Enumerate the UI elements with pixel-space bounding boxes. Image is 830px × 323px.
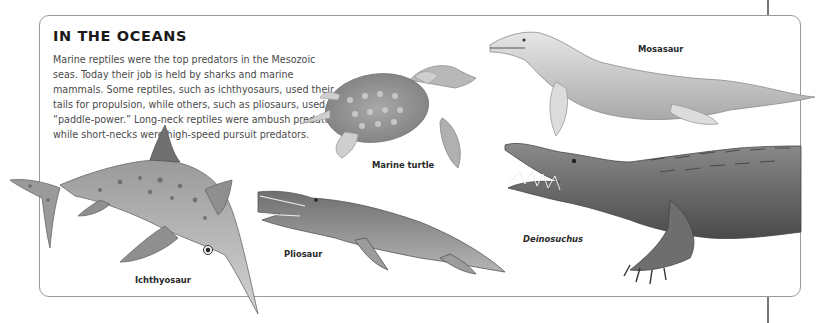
pliosaur-illustration [258,191,505,274]
pliosaur-label: Pliosaur [284,249,322,259]
ichthyosaur-label: Ichthyosaur [135,275,191,285]
marine-turtle-illustration [300,66,476,168]
marine-turtle-label: Marine turtle [372,160,434,170]
mosasaur-label: Mosasaur [638,44,683,54]
deinosuchus-label: Deinosuchus [523,234,583,244]
ichthyosaur-illustration [10,125,258,314]
deinosuchus-illustration [505,143,801,284]
